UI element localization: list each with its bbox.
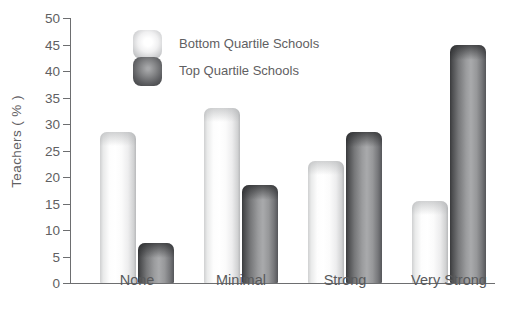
y-axis-line xyxy=(70,18,71,283)
y-axis-tick-label: 30 xyxy=(26,117,60,132)
bar-chart: Teachers ( % ) 05101520253035404550 None… xyxy=(0,0,514,328)
y-axis-tick-label: 45 xyxy=(26,37,60,52)
y-axis-tick-label: 40 xyxy=(26,64,60,79)
y-axis-title-text: Teachers ( % ) xyxy=(9,95,24,188)
y-axis-tick-mark xyxy=(63,204,70,205)
y-axis-tick-mark xyxy=(63,257,70,258)
x-axis-label: Strong xyxy=(324,272,367,288)
y-axis-tick-label: 25 xyxy=(26,143,60,158)
x-axis-label: Very Strong xyxy=(411,272,487,288)
bar xyxy=(204,108,240,283)
y-axis-tick-mark xyxy=(63,124,70,125)
bar xyxy=(346,132,382,283)
legend-swatch xyxy=(133,57,162,86)
y-axis-tick-mark xyxy=(63,230,70,231)
y-axis-tick-label: 5 xyxy=(26,249,60,264)
y-axis-tick-mark xyxy=(63,18,70,19)
bar xyxy=(412,201,448,283)
y-axis-tick-mark xyxy=(63,45,70,46)
y-axis-tick-label: 0 xyxy=(26,276,60,291)
legend-swatch xyxy=(133,30,162,59)
y-axis-tick-mark xyxy=(63,71,70,72)
x-axis-label: None xyxy=(120,272,155,288)
y-axis-tick-label: 50 xyxy=(26,11,60,26)
y-axis-tick-label: 15 xyxy=(26,196,60,211)
legend-label: Bottom Quartile Schools xyxy=(179,36,319,51)
bar xyxy=(308,161,344,283)
y-axis-tick-label: 20 xyxy=(26,170,60,185)
bar xyxy=(242,185,278,283)
bar xyxy=(450,45,486,284)
bar xyxy=(100,132,136,283)
x-axis-label: Minimal xyxy=(216,272,266,288)
legend: Bottom Quartile SchoolsTop Quartile Scho… xyxy=(133,30,383,90)
y-axis-tick-label: 35 xyxy=(26,90,60,105)
y-axis-tick-mark xyxy=(63,283,70,284)
y-axis-tick-mark xyxy=(63,177,70,178)
y-axis-tick-mark xyxy=(63,98,70,99)
legend-label: Top Quartile Schools xyxy=(179,63,299,78)
bar-group xyxy=(412,18,486,283)
y-axis-tick-label: 10 xyxy=(26,223,60,238)
y-axis-tick-mark xyxy=(63,151,70,152)
